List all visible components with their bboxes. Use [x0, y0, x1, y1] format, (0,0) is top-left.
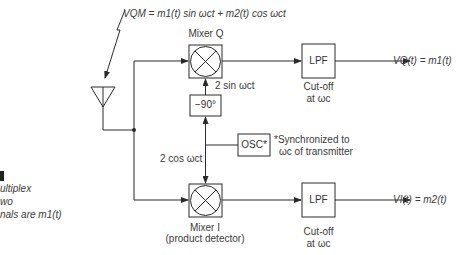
input-signal-label: VQM = m1(t) sin ωct + m2(t) cos ωct — [123, 8, 286, 20]
lpf-q-label: LPF — [302, 55, 335, 66]
lpf-i-cutoff-line2: at ωc — [295, 238, 342, 250]
junction-dot — [132, 128, 136, 132]
caption-line-1: ultiplex — [0, 183, 31, 195]
incoming-signal-bolt — [105, 10, 125, 78]
lpf-i-label: LPF — [302, 194, 335, 205]
oscillator-note-line2: ωc of transmitter — [279, 146, 353, 158]
lpf-q-cutoff-line2: at ωc — [295, 93, 342, 105]
caption-line-2: wo — [0, 196, 13, 208]
caption-fragment-mark — [0, 171, 4, 181]
oscillator-label: OSC* — [238, 139, 270, 150]
lpf-i-cutoff-line1: Cut-off — [295, 226, 342, 238]
output-q-label: VQ(t) = m1(t) — [393, 55, 452, 67]
output-i-label: VI(t) = m2(t) — [393, 194, 447, 206]
oscillator-note-line1: *Synchronized to — [274, 134, 350, 146]
caption-line-3: nals are m1(t) — [0, 209, 62, 221]
mixer-q-title: Mixer Q — [185, 28, 227, 40]
reference-sin-label: 2 sin ωct — [215, 80, 255, 92]
lpf-q-cutoff-line1: Cut-off — [295, 81, 342, 93]
mixer-i-subtitle: (product detector) — [165, 233, 245, 245]
diagram-canvas — [0, 0, 457, 255]
reference-cos-label: 2 cos ωct — [160, 153, 202, 165]
phase-shifter-label: −90° — [190, 99, 221, 110]
